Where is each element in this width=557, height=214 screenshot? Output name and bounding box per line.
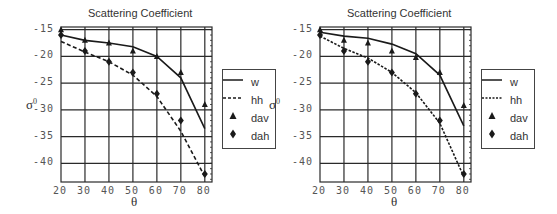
solid-line-swatch-icon — [223, 75, 243, 85]
y-tick-label: -40 — [33, 156, 54, 167]
y-tick-label: -30 — [292, 103, 313, 114]
x-tick-label: 80 — [456, 185, 470, 196]
y-tick-label: -35 — [292, 130, 313, 141]
y-tick-label: -20 — [292, 49, 313, 60]
y-tick-label: -30 — [33, 103, 54, 114]
chart-legend: w hh dav dah — [481, 69, 535, 149]
x-tick-label: 80 — [197, 185, 211, 196]
x-tick-label: 40 — [360, 185, 374, 196]
x-tick-label: 20 — [312, 185, 326, 196]
x-tick-label: 70 — [173, 185, 187, 196]
x-tick-label: 70 — [432, 185, 446, 196]
x-tick-label: 60 — [149, 185, 163, 196]
y-tick-label: -25 — [33, 76, 54, 87]
y-tick-label: -15 — [33, 23, 54, 34]
legend-item-dav: dav — [482, 111, 534, 129]
solid-line-swatch-icon — [482, 75, 502, 85]
y-axis-label: σ0 — [269, 97, 280, 113]
y-tick-label: -40 — [292, 156, 313, 167]
triangle-marker-icon — [482, 111, 502, 121]
y-tick-label: -25 — [292, 76, 313, 87]
x-tick-label: 30 — [336, 185, 350, 196]
dashed-line-swatch-icon — [482, 93, 502, 103]
y-tick-label: -20 — [33, 49, 54, 60]
x-axis-label: θ — [131, 194, 137, 210]
x-axis-label: θ — [391, 194, 397, 210]
x-tick-label: 50 — [125, 185, 139, 196]
x-tick-label: 20 — [53, 185, 67, 196]
diamond-marker-icon — [482, 129, 502, 139]
diamond-marker-icon — [223, 129, 243, 139]
y-tick-label: -35 — [33, 130, 54, 141]
y-tick-label: -15 — [292, 23, 313, 34]
legend-item-vv: w — [482, 75, 534, 93]
x-tick-label: 60 — [408, 185, 422, 196]
x-tick-label: 50 — [384, 185, 398, 196]
chart-panel-left: Scattering Coefficient σ0 θ 203040506070… — [0, 0, 278, 214]
chart-panel-right: Scattering Coefficient σ0 θ 203040506070… — [259, 0, 537, 214]
x-tick-label: 30 — [77, 185, 91, 196]
x-tick-label: 40 — [101, 185, 115, 196]
legend-item-hh: hh — [482, 93, 534, 111]
dashed-line-swatch-icon — [223, 93, 243, 103]
legend-item-dah: dah — [482, 129, 534, 147]
triangle-marker-icon — [223, 111, 243, 121]
